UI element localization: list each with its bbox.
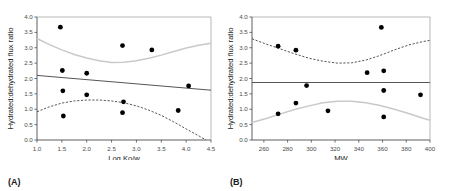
- y-tick-label: 4.0: [239, 13, 248, 20]
- panel-a-plot: 0.00.51.01.52.02.53.03.54.01.01.52.02.53…: [0, 0, 227, 160]
- panel-a: 0.00.51.01.52.02.53.03.54.01.01.52.02.53…: [0, 0, 227, 191]
- data-point: [294, 48, 299, 53]
- y-tick-label: 0.5: [24, 121, 33, 128]
- y-tick-label: 0.5: [239, 121, 248, 128]
- panel-b: 0.00.51.01.52.02.53.03.54.02602803003203…: [227, 0, 454, 191]
- x-tick-label: 320: [330, 145, 341, 152]
- y-axis-title: Hydrated:dehydrated flux ratio: [227, 28, 235, 130]
- data-point: [381, 115, 386, 120]
- data-point: [294, 101, 299, 106]
- data-point: [381, 68, 386, 73]
- upper-confidence-band: [252, 39, 430, 63]
- data-point: [149, 48, 154, 53]
- data-point: [60, 68, 65, 73]
- x-axis-title: MW: [334, 154, 348, 160]
- data-point: [276, 44, 281, 49]
- upper-confidence-band: [37, 39, 211, 63]
- x-tick-label: 380: [401, 145, 412, 152]
- data-point: [121, 99, 126, 104]
- plot-frame-outer: [37, 17, 211, 140]
- y-tick-label: 2.5: [24, 59, 33, 66]
- y-tick-label: 1.0: [24, 105, 33, 112]
- plot-frame: [252, 17, 430, 140]
- x-tick-label: 360: [377, 145, 388, 152]
- data-point: [84, 71, 89, 76]
- y-tick-label: 1.5: [24, 90, 33, 97]
- panel-a-label: (A): [8, 177, 21, 187]
- y-tick-label: 2.5: [239, 59, 248, 66]
- x-tick-label: 2.0: [82, 145, 91, 152]
- y-tick-label: 0.0: [239, 136, 248, 143]
- y-tick-label: 3.0: [24, 44, 33, 51]
- y-tick-label: 1.5: [239, 90, 248, 97]
- data-point: [304, 83, 309, 88]
- data-point: [418, 92, 423, 97]
- y-tick-label: 2.0: [239, 75, 248, 82]
- data-point: [120, 43, 125, 48]
- x-tick-label: 4.0: [182, 145, 191, 152]
- data-point: [60, 88, 65, 93]
- y-tick-label: 3.5: [239, 28, 248, 35]
- x-tick-label: 1.0: [33, 145, 42, 152]
- data-point: [276, 111, 281, 116]
- y-tick-label: 1.0: [239, 105, 248, 112]
- plot-frame: [37, 17, 211, 140]
- x-axis-title: Log Ko/w: [108, 154, 140, 160]
- y-tick-label: 4.0: [24, 13, 33, 20]
- data-point: [381, 88, 386, 93]
- x-tick-label: 280: [282, 145, 293, 152]
- x-tick-label: 260: [259, 145, 270, 152]
- data-point: [326, 108, 331, 113]
- regression-line: [37, 75, 211, 90]
- figure-container: 0.00.51.01.52.02.53.03.54.01.01.52.02.53…: [0, 0, 454, 191]
- data-point: [186, 83, 191, 88]
- x-tick-label: 300: [306, 145, 317, 152]
- data-point: [84, 92, 89, 97]
- data-point: [58, 25, 63, 30]
- plot-frame-outer: [252, 17, 430, 140]
- data-point: [176, 108, 181, 113]
- panel-b-label: (B): [230, 177, 243, 187]
- data-point: [61, 114, 66, 119]
- lower-confidence-band: [37, 100, 206, 140]
- panel-b-plot: 0.00.51.01.52.02.53.03.54.02602803003203…: [227, 0, 454, 160]
- y-tick-label: 3.0: [239, 44, 248, 51]
- y-tick-label: 2.0: [24, 75, 33, 82]
- data-point: [120, 110, 125, 115]
- x-tick-label: 400: [425, 145, 436, 152]
- y-axis-title: Hydrated:dehydrated flux ratio: [6, 28, 15, 130]
- x-tick-label: 3.0: [132, 145, 141, 152]
- x-tick-label: 1.5: [58, 145, 67, 152]
- x-tick-label: 4.5: [207, 145, 216, 152]
- x-tick-label: 3.5: [157, 145, 166, 152]
- data-point: [365, 70, 370, 75]
- x-tick-label: 340: [354, 145, 365, 152]
- y-tick-label: 0.0: [24, 136, 33, 143]
- y-tick-label: 3.5: [24, 28, 33, 35]
- x-tick-label: 2.5: [107, 145, 116, 152]
- data-point: [379, 25, 384, 30]
